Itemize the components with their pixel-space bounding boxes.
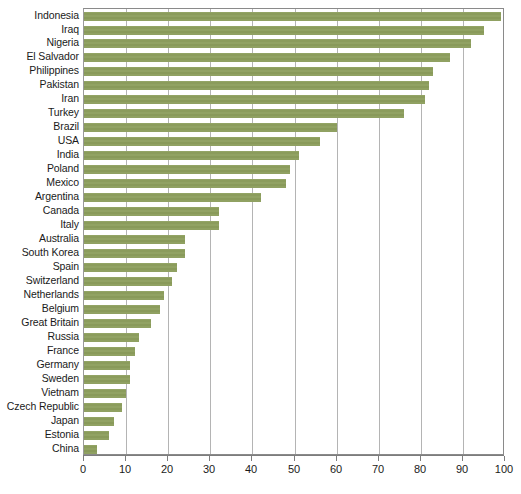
bar — [84, 26, 484, 35]
bar — [84, 221, 219, 230]
category-label: Sweden — [0, 373, 79, 384]
category-label: Spain — [0, 261, 79, 272]
category-label: China — [0, 443, 79, 454]
bar-chart: IndonesiaIraqNigeriaEl SalvadorPhilippin… — [0, 0, 521, 494]
x-tick-label-10: 10 — [105, 463, 145, 475]
category-label: Czech Republic — [0, 401, 79, 412]
category-label: USA — [0, 135, 79, 146]
bar — [84, 417, 114, 426]
category-label: Japan — [0, 415, 79, 426]
bar — [84, 123, 337, 132]
category-label: Indonesia — [0, 10, 79, 21]
bar — [84, 347, 135, 356]
tick-mark-90 — [462, 456, 463, 461]
category-label: Argentina — [0, 191, 79, 202]
category-label: Iraq — [0, 24, 79, 35]
tick-mark-100 — [504, 456, 505, 461]
x-tick-label-60: 60 — [316, 463, 356, 475]
category-label: Pakistan — [0, 79, 79, 90]
category-label: Russia — [0, 331, 79, 342]
category-label: Vietnam — [0, 387, 79, 398]
x-tick-label-100: 100 — [484, 463, 521, 475]
category-label: Germany — [0, 359, 79, 370]
bar — [84, 12, 501, 21]
tick-mark-10 — [125, 456, 126, 461]
tick-mark-30 — [209, 456, 210, 461]
bar — [84, 249, 185, 258]
tick-mark-0 — [83, 456, 84, 461]
x-tick-label-70: 70 — [358, 463, 398, 475]
x-tick-label-30: 30 — [189, 463, 229, 475]
bar — [84, 361, 130, 370]
tick-mark-20 — [167, 456, 168, 461]
bar — [84, 431, 109, 440]
category-label: Estonia — [0, 429, 79, 440]
category-label: Turkey — [0, 107, 79, 118]
bar — [84, 179, 286, 188]
category-label: Great Britain — [0, 317, 79, 328]
category-label: Iran — [0, 93, 79, 104]
bar — [84, 53, 450, 62]
category-label: Italy — [0, 219, 79, 230]
bar — [84, 263, 177, 272]
x-tick-label-20: 20 — [147, 463, 187, 475]
x-tick-label-80: 80 — [400, 463, 440, 475]
tick-mark-80 — [420, 456, 421, 461]
bar — [84, 165, 290, 174]
x-tick-label-0: 0 — [63, 463, 103, 475]
bar — [84, 277, 172, 286]
bar — [84, 291, 164, 300]
tick-mark-70 — [378, 456, 379, 461]
bar — [84, 445, 97, 454]
plot-area — [83, 8, 504, 455]
category-label: El Salvador — [0, 51, 79, 62]
bar — [84, 319, 151, 328]
category-label: Mexico — [0, 177, 79, 188]
bar — [84, 389, 126, 398]
category-label: Philippines — [0, 65, 79, 76]
category-label: Australia — [0, 233, 79, 244]
bar — [84, 81, 429, 90]
x-tick-label-50: 50 — [274, 463, 314, 475]
category-label: Canada — [0, 205, 79, 216]
bar — [84, 403, 122, 412]
category-label: Nigeria — [0, 37, 79, 48]
bar — [84, 235, 185, 244]
gridline-90 — [463, 9, 464, 454]
bar — [84, 39, 471, 48]
tick-mark-60 — [336, 456, 337, 461]
tick-mark-40 — [251, 456, 252, 461]
bar — [84, 67, 433, 76]
category-label: Netherlands — [0, 289, 79, 300]
bar — [84, 137, 320, 146]
bar — [84, 333, 139, 342]
bar — [84, 95, 425, 104]
bar — [84, 207, 219, 216]
category-label: Switzerland — [0, 275, 79, 286]
category-label: India — [0, 149, 79, 160]
tick-mark-50 — [294, 456, 295, 461]
category-label: South Korea — [0, 247, 79, 258]
category-label: Poland — [0, 163, 79, 174]
category-axis-labels: IndonesiaIraqNigeriaEl SalvadorPhilippin… — [0, 8, 79, 455]
bar — [84, 109, 404, 118]
bar — [84, 305, 160, 314]
bar — [84, 151, 299, 160]
bar — [84, 375, 130, 384]
category-label: Brazil — [0, 121, 79, 132]
x-tick-label-40: 40 — [231, 463, 271, 475]
x-tick-label-90: 90 — [442, 463, 482, 475]
bar — [84, 193, 261, 202]
category-label: France — [0, 345, 79, 356]
category-label: Belgium — [0, 303, 79, 314]
